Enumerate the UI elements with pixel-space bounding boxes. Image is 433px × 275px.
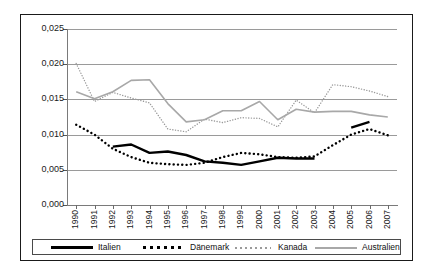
- legend-label: Dänemark: [190, 242, 229, 252]
- series-line-italien: [351, 122, 369, 128]
- legend-swatch-icon: [315, 242, 357, 253]
- legend-swatch-icon: [51, 242, 93, 253]
- legend-swatch-icon: [143, 242, 185, 253]
- legend-label: Kanada: [278, 242, 307, 252]
- series-layer: [0, 0, 433, 275]
- legend-item-kanada[interactable]: Kanada: [231, 240, 307, 254]
- legend-item-australien[interactable]: Australien: [315, 240, 400, 254]
- series-line-australien: [76, 80, 388, 122]
- legend-label: Australien: [362, 242, 400, 252]
- legend-swatch-icon: [231, 242, 273, 253]
- series-line-kanada: [76, 64, 388, 132]
- legend-item-italien[interactable]: Italien: [51, 240, 121, 254]
- legend-item-dnemark[interactable]: Dänemark: [143, 240, 229, 254]
- chart-screenshot: 0,0250,0200,0150,0100,0050,000 199019911…: [0, 0, 433, 275]
- legend-label: Italien: [98, 242, 121, 252]
- chart-legend: ItalienDänemarkKanadaAustralien: [32, 239, 401, 255]
